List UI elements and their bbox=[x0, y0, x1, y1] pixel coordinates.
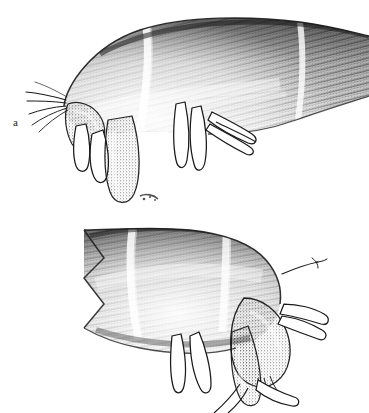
specimen-a-setae bbox=[26, 82, 68, 132]
leg-4 bbox=[174, 102, 189, 168]
leg-b-6 bbox=[256, 380, 299, 406]
leg-b-1 bbox=[171, 334, 186, 393]
leg-3-broad bbox=[105, 116, 139, 202]
illustration-plate: a bbox=[0, 0, 369, 413]
figure-panel-a: a bbox=[0, 0, 369, 206]
specimen-b-dorsal-seta bbox=[282, 258, 327, 274]
figure-a-drawing bbox=[0, 0, 369, 206]
ink-smudge-artifact bbox=[140, 195, 158, 201]
figure-panel-b: b bbox=[0, 206, 369, 413]
figure-b-drawing bbox=[0, 206, 369, 413]
leg-1 bbox=[74, 124, 90, 171]
